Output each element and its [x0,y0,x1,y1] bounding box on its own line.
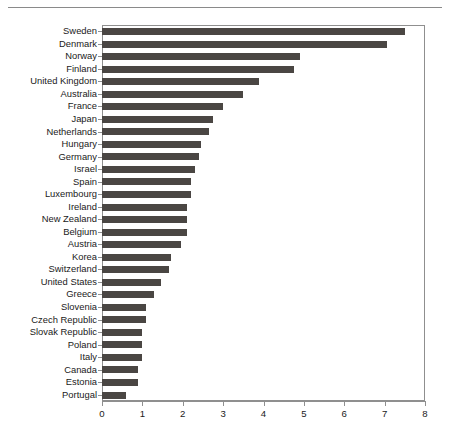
x-axis-tick-label: 3 [220,409,225,419]
y-axis-label: Slovenia [0,302,97,312]
bar-row [102,251,425,264]
x-axis-tick [264,401,265,406]
y-axis-tick [98,94,103,95]
y-axis-label: Belgium [0,227,97,237]
y-axis-label: Czech Republic [0,315,97,325]
bar [102,178,191,185]
y-axis-label: Ireland [0,202,97,212]
bar [102,354,142,361]
y-axis-tick [98,320,103,321]
x-axis-tick [425,401,426,406]
bar [102,191,191,198]
bar-row [102,276,425,289]
bar [102,291,154,298]
y-axis-tick [98,257,103,258]
x-axis-tick [102,401,103,406]
plot-area: SwedenDenmarkNorwayFinlandUnited Kingdom… [0,0,450,443]
x-axis-tick [385,401,386,406]
y-axis-tick [98,207,103,208]
bar [102,91,243,98]
y-axis-label: France [0,101,97,111]
bar [102,216,187,223]
y-axis-tick [98,382,103,383]
bar-row [102,38,425,51]
bar [102,341,142,348]
bar-row [102,188,425,201]
bar-row [102,163,425,176]
x-axis-tick [223,401,224,406]
y-axis-label: Luxembourg [0,189,97,199]
x-axis-tick-label: 4 [261,409,266,419]
bar [102,329,142,336]
y-axis-label: Greece [0,289,97,299]
bar [102,141,201,148]
y-axis-tick [98,119,103,120]
bar [102,379,138,386]
bar-row [102,88,425,101]
y-axis-label: Canada [0,365,97,375]
y-axis-tick [98,132,103,133]
y-axis-label: Sweden [0,26,97,36]
y-axis-tick [98,232,103,233]
y-axis-label: Hungary [0,139,97,149]
bar-row [102,388,425,401]
bar [102,28,405,35]
bar-row [102,338,425,351]
y-axis-label: Austria [0,239,97,249]
bar-row [102,200,425,213]
y-axis-label: Netherlands [0,127,97,137]
y-axis-label: Japan [0,114,97,124]
y-axis-label: Estonia [0,377,97,387]
y-axis-tick [98,157,103,158]
bar-row [102,226,425,239]
bar-row [102,363,425,376]
x-axis-tick [142,401,143,406]
x-axis-tick-label: 2 [180,409,185,419]
y-axis-label: United Kingdom [0,76,97,86]
y-axis-label: United States [0,277,97,287]
y-axis-tick [98,106,103,107]
bar-row [102,326,425,339]
bar-row [102,100,425,113]
x-axis-tick [344,401,345,406]
x-axis-tick-label: 5 [301,409,306,419]
bar [102,53,300,60]
y-axis-tick [98,282,103,283]
bar-row [102,313,425,326]
bar [102,204,187,211]
bar-row [102,125,425,138]
bars-layer [102,25,425,401]
y-axis-tick [98,169,103,170]
bar [102,41,387,48]
x-axis-tick [183,401,184,406]
x-axis-tick-label: 1 [140,409,145,419]
y-axis-label: Slovak Republic [0,327,97,337]
y-axis-label: Finland [0,64,97,74]
bar-row [102,263,425,276]
x-axis-tick-label: 6 [342,409,347,419]
x-axis-tick-label: 7 [382,409,387,419]
y-axis-tick [98,31,103,32]
y-axis-label: Portugal [0,390,97,400]
bar-row [102,213,425,226]
bar [102,78,259,85]
bar-row [102,288,425,301]
y-axis-label: New Zealand [0,214,97,224]
y-axis-label: Poland [0,340,97,350]
x-axis-tick-label: 8 [422,409,427,419]
bar [102,304,146,311]
y-axis-tick [98,307,103,308]
y-axis-label: Norway [0,51,97,61]
bar-row [102,150,425,163]
y-axis-label: Spain [0,177,97,187]
bar [102,279,161,286]
y-axis-label: Switzerland [0,264,97,274]
bar-row [102,25,425,38]
y-axis-tick [98,345,103,346]
y-axis-tick [98,144,103,145]
bar [102,366,138,373]
y-axis-labels: SwedenDenmarkNorwayFinlandUnited Kingdom… [0,25,97,401]
bar [102,153,199,160]
y-axis-label: Germany [0,152,97,162]
y-axis-label: Italy [0,352,97,362]
